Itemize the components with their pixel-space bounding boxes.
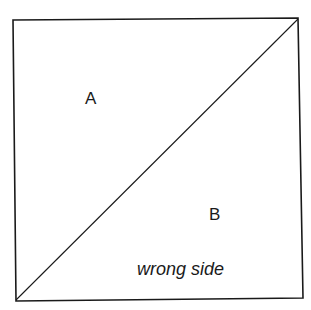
label-a: A: [85, 89, 97, 108]
wrong-side-note: wrong side: [137, 259, 224, 279]
label-b: B: [209, 205, 220, 224]
half-square-triangle-diagram: A B wrong side: [0, 0, 311, 310]
diagonal-line: [16, 19, 298, 300]
